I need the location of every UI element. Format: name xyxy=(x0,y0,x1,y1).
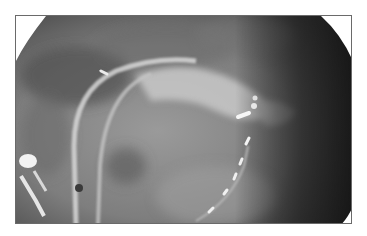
dark-right-field xyxy=(16,16,352,224)
xray-image xyxy=(15,15,352,224)
xray-canvas xyxy=(16,16,352,224)
dark-marker xyxy=(75,184,83,192)
